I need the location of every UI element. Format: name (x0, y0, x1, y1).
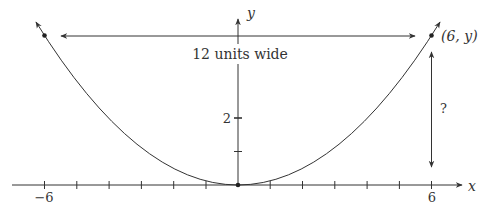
right-point-label: (6, y) (441, 28, 478, 44)
x-tick-label-right: 6 (428, 190, 436, 205)
y-axis-label: y (246, 5, 256, 21)
y-tick-label: 2 (223, 111, 231, 126)
vertex-dot (236, 183, 241, 188)
height-label: ? (440, 101, 447, 116)
x-tick-label-left: −6 (34, 190, 53, 205)
right-point-dot (429, 33, 434, 38)
x-axis-label: x (468, 178, 476, 194)
left-point-dot (42, 33, 47, 38)
width-label: 12 units wide (192, 46, 288, 62)
parabola-diagram: 12 units wide ? (6, y) y x −6 6 2 (0, 0, 484, 209)
